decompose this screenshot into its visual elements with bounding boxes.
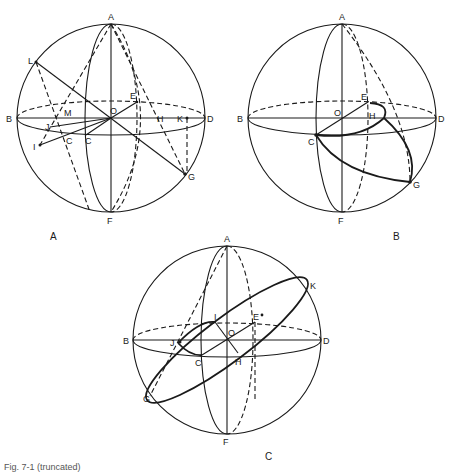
label-b-c: B	[123, 336, 129, 346]
label-h-c: H	[235, 357, 242, 367]
panel-caption-c: C	[265, 451, 272, 462]
label-i-c: I	[214, 312, 217, 322]
label-d-b: D	[438, 114, 445, 124]
label-a-a: A	[108, 12, 114, 22]
label-g-c: G	[143, 394, 150, 404]
label-c2-a: C	[85, 136, 92, 146]
figure-a: A B D F L M O E H K J I C C G A	[6, 12, 214, 242]
label-g-b: G	[413, 180, 420, 190]
label-b-a: B	[6, 114, 12, 124]
figure-c: A B D F K I O E J C H G C	[123, 234, 330, 462]
line-ag-a	[111, 24, 185, 174]
sphere-diagrams: A B D F L M O E H K J I C C G A A B D F	[0, 0, 451, 472]
label-f-a: F	[107, 216, 113, 226]
label-m-a: M	[64, 108, 72, 118]
label-h-b: H	[369, 111, 376, 121]
label-e-b: E	[361, 92, 367, 102]
label-h-a: H	[157, 114, 164, 124]
label-j-a: J	[45, 122, 50, 132]
label-e-a: E	[130, 91, 136, 101]
label-f-b: F	[338, 216, 344, 226]
label-k-c: K	[310, 281, 316, 291]
label-a-b: A	[339, 12, 345, 22]
label-o-c: O	[228, 328, 235, 338]
panel-caption-a: A	[50, 231, 57, 242]
label-f-c: F	[223, 437, 229, 447]
label-a-c: A	[224, 234, 230, 244]
label-c-b: C	[308, 137, 315, 147]
label-o-a: O	[110, 106, 117, 116]
label-i-a: I	[33, 142, 36, 152]
label-o-b: O	[334, 108, 341, 118]
label-l-a: L	[28, 56, 33, 66]
label-d-a: D	[207, 114, 214, 124]
line-jo-a	[50, 118, 111, 127]
figure-caption: Fig. 7-1 (truncated)	[4, 462, 81, 472]
label-k-a: K	[177, 114, 183, 124]
label-e-c: E	[253, 312, 259, 322]
label-d-c: D	[323, 336, 330, 346]
label-c1-a: C	[66, 136, 73, 146]
label-c-c: C	[195, 358, 202, 368]
figure-b: A B D F O E H C G B	[237, 12, 445, 242]
label-g-a: G	[188, 172, 195, 182]
label-b-b: B	[237, 114, 243, 124]
label-j-c: J	[170, 338, 175, 348]
line-ce-c	[202, 322, 255, 355]
panel-caption-b: B	[393, 231, 400, 242]
